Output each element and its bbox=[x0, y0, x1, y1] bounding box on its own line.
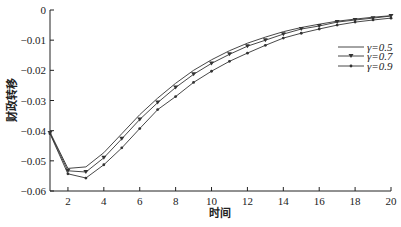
y-tick-label: −0.05 bbox=[21, 155, 47, 167]
y-tick-label: −0.01 bbox=[21, 34, 46, 46]
dot-marker-icon bbox=[318, 28, 321, 31]
legend-item: γ=0.9 bbox=[338, 60, 393, 72]
dot-marker-icon bbox=[372, 19, 375, 22]
dot-marker-icon bbox=[49, 132, 52, 135]
dot-marker-icon bbox=[282, 37, 285, 40]
dot-marker-icon bbox=[192, 81, 195, 84]
y-tick-label: −0.04 bbox=[21, 125, 47, 137]
triangle-marker-icon bbox=[227, 52, 232, 56]
legend-label: γ=0.9 bbox=[367, 60, 393, 72]
series-line bbox=[50, 18, 391, 178]
dot-marker-icon bbox=[336, 24, 339, 27]
dot-marker-icon bbox=[84, 177, 87, 180]
chart: 0−0.01−0.02−0.03−0.04−0.05−0.06 24681012… bbox=[0, 0, 401, 227]
series-line bbox=[50, 16, 391, 172]
line-chart: 0−0.01−0.02−0.03−0.04−0.05−0.06 24681012… bbox=[0, 0, 401, 227]
x-tick-label: 6 bbox=[137, 195, 143, 207]
x-axis-title: 时间 bbox=[209, 206, 231, 220]
dot-marker-icon bbox=[246, 52, 249, 55]
x-tick-label: 20 bbox=[386, 195, 398, 207]
triangle-marker-icon bbox=[281, 32, 286, 36]
dot-marker-icon bbox=[300, 32, 303, 35]
y-tick-label: 0 bbox=[41, 4, 47, 16]
x-tick-label: 16 bbox=[314, 195, 326, 207]
y-tick-label: −0.02 bbox=[21, 64, 46, 76]
x-tick-label: 12 bbox=[242, 195, 253, 207]
series-γ=0.5 bbox=[50, 16, 391, 169]
legend: γ=0.5γ=0.7γ=0.9 bbox=[338, 41, 393, 72]
dot-marker-icon bbox=[264, 44, 267, 47]
dot-marker-icon bbox=[210, 70, 213, 73]
dot-marker-icon bbox=[228, 60, 231, 63]
y-tick-label: −0.06 bbox=[21, 185, 47, 197]
y-ticks: 0−0.01−0.02−0.03−0.04−0.05−0.06 bbox=[21, 4, 54, 197]
x-tick-label: 4 bbox=[101, 195, 107, 207]
x-tick-label: 14 bbox=[278, 195, 290, 207]
triangle-marker-icon bbox=[245, 44, 250, 48]
x-tick-label: 8 bbox=[173, 195, 179, 207]
y-tick-label: −0.03 bbox=[21, 95, 47, 107]
x-tick-label: 10 bbox=[206, 195, 218, 207]
triangle-marker-icon bbox=[263, 38, 268, 42]
x-tick-label: 2 bbox=[65, 195, 71, 207]
dot-marker-icon bbox=[156, 108, 159, 111]
dot-marker-icon bbox=[120, 146, 123, 149]
series-γ=0.7 bbox=[48, 14, 394, 174]
dot-marker-icon bbox=[390, 17, 393, 20]
y-axis-title: 财政转移 bbox=[5, 78, 19, 123]
axes: 0−0.01−0.02−0.03−0.04−0.05−0.06 24681012… bbox=[21, 4, 397, 207]
dot-marker-icon bbox=[174, 95, 177, 98]
x-ticks: 2468101214161820 bbox=[65, 187, 397, 207]
series-layer bbox=[48, 14, 394, 179]
dot-marker-icon bbox=[138, 127, 141, 130]
x-tick-label: 18 bbox=[350, 195, 362, 207]
dot-marker-icon bbox=[102, 163, 105, 166]
series-line bbox=[50, 16, 391, 169]
dot-marker-icon bbox=[354, 21, 357, 24]
dot-marker-icon bbox=[67, 172, 70, 175]
dot-marker-icon bbox=[350, 65, 353, 68]
